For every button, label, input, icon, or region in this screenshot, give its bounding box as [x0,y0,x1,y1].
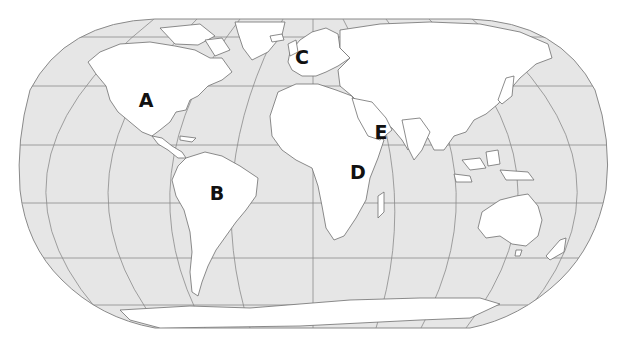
map-label-b: B [210,184,224,203]
world-map [0,0,625,345]
map-label-c: C [295,48,309,67]
map-label-e: E [375,123,388,142]
map-label-d: D [350,163,366,182]
map-label-a: A [139,91,154,110]
